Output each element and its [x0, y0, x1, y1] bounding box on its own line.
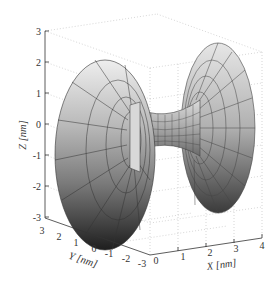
- svg-text:1: 1: [181, 251, 186, 262]
- svg-text:-2: -2: [33, 181, 41, 192]
- svg-text:-3: -3: [33, 212, 41, 223]
- svg-text:3: 3: [234, 243, 239, 254]
- svg-text:3: 3: [40, 225, 45, 236]
- svg-text:0: 0: [92, 243, 97, 254]
- svg-text:-1: -1: [33, 150, 41, 161]
- svg-text:-1: -1: [105, 248, 113, 259]
- z-axis-ticks: [45, 31, 49, 217]
- svg-text:4: 4: [260, 240, 265, 251]
- svg-text:-3: -3: [138, 258, 146, 269]
- svg-text:3: 3: [36, 26, 41, 37]
- z-axis-label: Z [nm]: [17, 120, 28, 149]
- surface-left-bell: [55, 60, 155, 250]
- svg-text:0: 0: [36, 119, 41, 130]
- svg-text:2: 2: [36, 57, 41, 68]
- z-tick-labels: 3 2 1 0 -1 -2 -3: [33, 26, 41, 223]
- surface-plot: 3 2 1 0 -1 -2 -3 Z [nm] 3 2 1 0 -1 -2 -3…: [0, 0, 278, 283]
- x-axis-label: X [nm]: [205, 257, 237, 272]
- svg-text:2: 2: [208, 247, 213, 258]
- svg-text:-2: -2: [122, 253, 130, 264]
- svg-text:2: 2: [57, 231, 62, 242]
- svg-text:0: 0: [154, 255, 159, 266]
- svg-text:1: 1: [36, 88, 41, 99]
- svg-text:1: 1: [74, 237, 79, 248]
